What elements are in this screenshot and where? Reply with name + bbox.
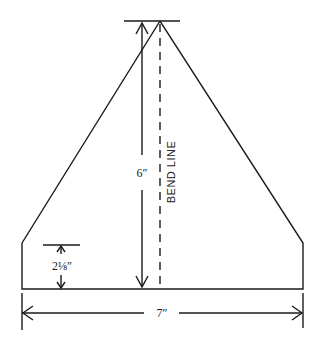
pattern-diagram: 6″ BEND LINE 2⅛″ 7″ [0, 0, 322, 348]
bend-line-label: BEND LINE [165, 141, 177, 204]
height-dimension [136, 23, 148, 287]
shape-outline [22, 21, 303, 289]
height-label: 6″ [137, 166, 148, 180]
width-label: 7″ [157, 306, 168, 320]
side-height-label: 2⅛″ [52, 259, 72, 273]
